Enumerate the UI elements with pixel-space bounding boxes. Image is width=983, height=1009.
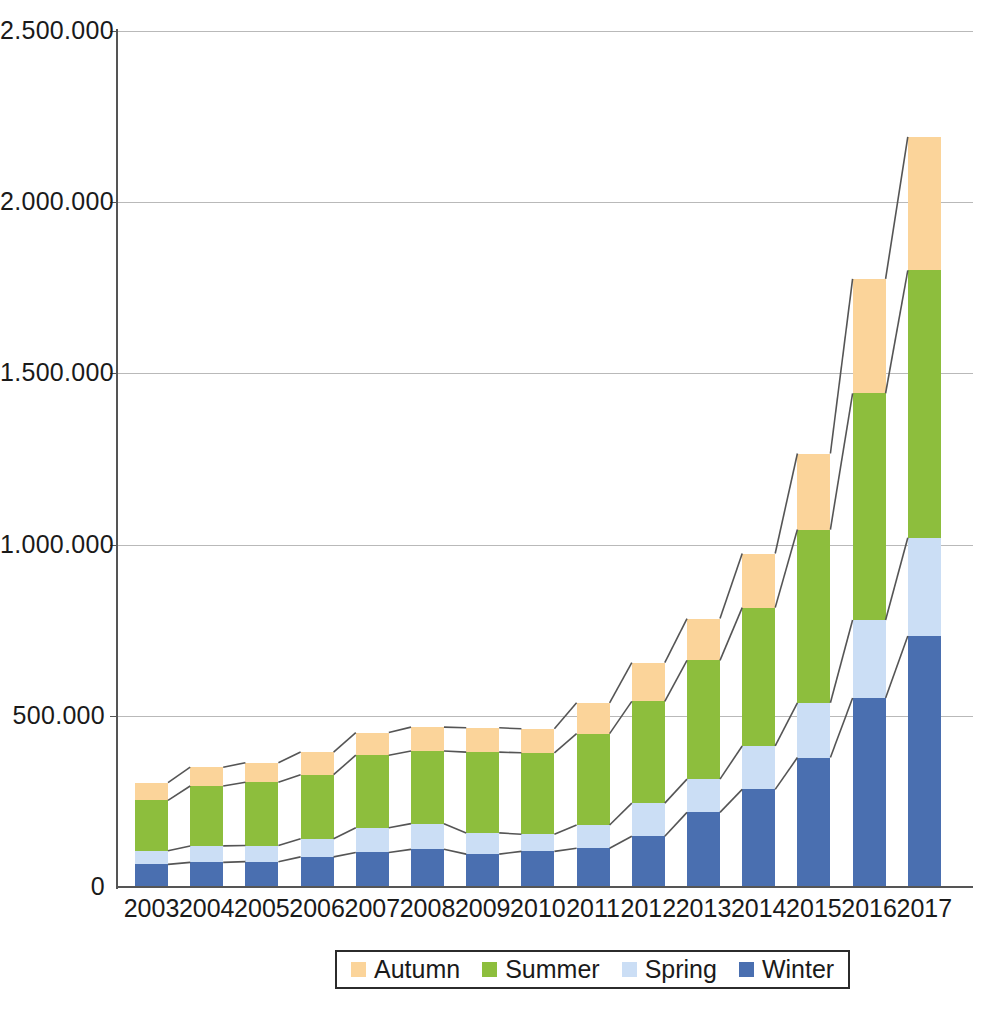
connector-line bbox=[334, 755, 356, 775]
connector-line bbox=[168, 786, 190, 800]
bar-segment-summer-2003[interactable] bbox=[135, 800, 168, 850]
connector-line bbox=[389, 751, 411, 755]
bar-segment-winter-2003[interactable] bbox=[135, 864, 168, 887]
legend-label-summer: Summer bbox=[505, 957, 599, 982]
bar-segment-summer-2008[interactable] bbox=[411, 751, 444, 824]
bar-2017[interactable] bbox=[908, 31, 941, 887]
bar-segment-winter-2016[interactable] bbox=[853, 698, 886, 887]
bar-segment-autumn-2016[interactable] bbox=[853, 279, 886, 393]
bar-segment-winter-2005[interactable] bbox=[245, 862, 278, 887]
legend-item-summer[interactable]: Summer bbox=[482, 957, 599, 982]
connector-line bbox=[554, 848, 576, 851]
connector-line bbox=[610, 701, 632, 733]
bar-segment-autumn-2005[interactable] bbox=[245, 763, 278, 783]
bar-segment-autumn-2011[interactable] bbox=[577, 703, 610, 734]
bar-segment-autumn-2013[interactable] bbox=[687, 619, 720, 661]
bar-segment-autumn-2009[interactable] bbox=[466, 728, 499, 752]
x-tick-label-2017: 2017 bbox=[884, 896, 964, 921]
connector-line bbox=[444, 727, 466, 728]
bar-segment-spring-2012[interactable] bbox=[632, 803, 665, 836]
bar-segment-winter-2011[interactable] bbox=[577, 848, 610, 887]
bar-segment-spring-2006[interactable] bbox=[301, 839, 334, 857]
bar-2003[interactable] bbox=[135, 31, 168, 887]
bar-segment-summer-2017[interactable] bbox=[908, 270, 941, 537]
bar-segment-winter-2012[interactable] bbox=[632, 836, 665, 887]
bar-segment-autumn-2006[interactable] bbox=[301, 752, 334, 775]
legend-item-autumn[interactable]: Autumn bbox=[351, 957, 460, 982]
bar-segment-spring-2003[interactable] bbox=[135, 851, 168, 865]
connector-line bbox=[830, 620, 852, 703]
bar-segment-spring-2009[interactable] bbox=[466, 833, 499, 854]
bar-2011[interactable] bbox=[577, 31, 610, 887]
bar-segment-winter-2007[interactable] bbox=[356, 852, 389, 887]
legend-swatch-spring bbox=[622, 962, 637, 977]
bar-segment-winter-2017[interactable] bbox=[908, 636, 941, 887]
bar-2012[interactable] bbox=[632, 31, 665, 887]
bar-segment-summer-2007[interactable] bbox=[356, 755, 389, 828]
bar-segment-winter-2006[interactable] bbox=[301, 857, 334, 887]
bar-segment-spring-2010[interactable] bbox=[521, 834, 554, 851]
bar-segment-spring-2008[interactable] bbox=[411, 824, 444, 850]
connector-line bbox=[499, 851, 521, 854]
bar-2015[interactable] bbox=[797, 31, 830, 887]
bar-segment-spring-2007[interactable] bbox=[356, 828, 389, 853]
bar-2014[interactable] bbox=[742, 31, 775, 887]
x-axis-line bbox=[116, 886, 973, 888]
bar-segment-spring-2016[interactable] bbox=[853, 620, 886, 698]
bar-segment-summer-2013[interactable] bbox=[687, 660, 720, 779]
bar-segment-summer-2016[interactable] bbox=[853, 393, 886, 620]
bar-segment-spring-2013[interactable] bbox=[687, 779, 720, 812]
connector-line bbox=[830, 279, 852, 454]
bar-segment-summer-2005[interactable] bbox=[245, 782, 278, 845]
bar-segment-summer-2015[interactable] bbox=[797, 530, 830, 703]
bar-segment-winter-2014[interactable] bbox=[742, 789, 775, 887]
bar-segment-winter-2010[interactable] bbox=[521, 851, 554, 887]
connector-line bbox=[389, 849, 411, 852]
bar-segment-autumn-2007[interactable] bbox=[356, 733, 389, 756]
bar-segment-autumn-2003[interactable] bbox=[135, 783, 168, 801]
bar-2008[interactable] bbox=[411, 31, 444, 887]
bar-segment-winter-2004[interactable] bbox=[190, 862, 223, 887]
bar-segment-spring-2005[interactable] bbox=[245, 846, 278, 862]
bar-segment-summer-2012[interactable] bbox=[632, 701, 665, 803]
bar-segment-autumn-2014[interactable] bbox=[742, 554, 775, 608]
bar-2006[interactable] bbox=[301, 31, 334, 887]
bar-segment-winter-2013[interactable] bbox=[687, 812, 720, 887]
bar-segment-spring-2015[interactable] bbox=[797, 703, 830, 758]
bar-2005[interactable] bbox=[245, 31, 278, 887]
bar-segment-winter-2009[interactable] bbox=[466, 854, 499, 887]
connector-line bbox=[665, 779, 687, 803]
bar-segment-winter-2015[interactable] bbox=[797, 758, 830, 887]
bar-segment-winter-2008[interactable] bbox=[411, 849, 444, 887]
bar-segment-summer-2009[interactable] bbox=[466, 752, 499, 833]
bar-2004[interactable] bbox=[190, 31, 223, 887]
connector-line bbox=[223, 763, 245, 767]
bar-2016[interactable] bbox=[853, 31, 886, 887]
bar-2010[interactable] bbox=[521, 31, 554, 887]
bar-segment-autumn-2008[interactable] bbox=[411, 727, 444, 751]
bar-segment-autumn-2012[interactable] bbox=[632, 663, 665, 702]
connector-line bbox=[168, 767, 190, 782]
bar-segment-autumn-2004[interactable] bbox=[190, 767, 223, 786]
bar-segment-spring-2017[interactable] bbox=[908, 538, 941, 636]
bar-2009[interactable] bbox=[466, 31, 499, 887]
bar-segment-autumn-2017[interactable] bbox=[908, 137, 941, 271]
connector-line bbox=[775, 703, 797, 746]
y-tick-label: 500.000 bbox=[0, 703, 105, 728]
connector-line bbox=[720, 789, 742, 812]
y-tick-label: 0 bbox=[0, 874, 105, 899]
bar-segment-spring-2014[interactable] bbox=[742, 746, 775, 789]
bar-segment-autumn-2010[interactable] bbox=[521, 729, 554, 753]
bar-2007[interactable] bbox=[356, 31, 389, 887]
bar-segment-summer-2010[interactable] bbox=[521, 753, 554, 834]
bar-segment-summer-2014[interactable] bbox=[742, 608, 775, 746]
legend-item-winter[interactable]: Winter bbox=[739, 957, 834, 982]
legend-item-spring[interactable]: Spring bbox=[622, 957, 717, 982]
bar-segment-spring-2004[interactable] bbox=[190, 846, 223, 862]
bar-segment-summer-2011[interactable] bbox=[577, 734, 610, 825]
bar-segment-summer-2006[interactable] bbox=[301, 775, 334, 839]
bar-2013[interactable] bbox=[687, 31, 720, 887]
bar-segment-autumn-2015[interactable] bbox=[797, 454, 830, 530]
bar-segment-summer-2004[interactable] bbox=[190, 786, 223, 846]
bar-segment-spring-2011[interactable] bbox=[577, 825, 610, 848]
